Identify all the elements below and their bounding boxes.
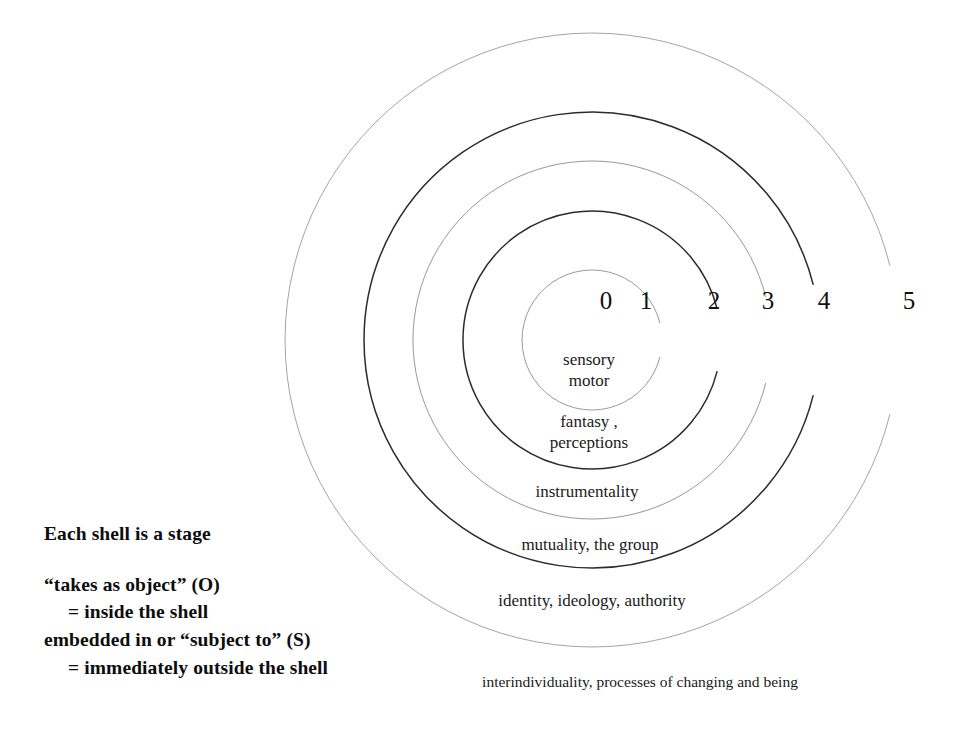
- ring-number-0: 0: [593, 288, 619, 313]
- ring-label-2: fantasy , perceptions: [550, 412, 628, 453]
- shell-ring-3-arc: [413, 161, 766, 519]
- ring-number-5: 5: [896, 288, 922, 313]
- outside-shells-label: interindividuality, processes of changin…: [482, 673, 798, 692]
- ring-label-1: sensory motor: [563, 350, 615, 391]
- ring-number-2: 2: [701, 288, 727, 313]
- legend-line-takes-as-object: “takes as object” (O): [44, 571, 384, 599]
- ring-label-3: instrumentality: [536, 482, 639, 503]
- concentric-shells-diagram: 0 1 2 3 4 5 sensory motor fantasy , perc…: [0, 0, 964, 743]
- legend-line-subject-to: embedded in or “subject to” (S): [44, 626, 384, 654]
- ring-number-4: 4: [811, 288, 837, 313]
- ring-number-3: 3: [755, 288, 781, 313]
- legend-line-inside-the-shell: = inside the shell: [44, 598, 384, 626]
- legend-heading: Each shell is a stage: [44, 520, 384, 548]
- ring-label-5: identity, ideology, authority: [498, 591, 686, 612]
- ring-label-4: mutuality, the group: [521, 535, 658, 556]
- legend-line-outside-the-shell: = immediately outside the shell: [44, 654, 384, 682]
- legend-spacer: [44, 548, 384, 571]
- ring-number-1: 1: [633, 288, 659, 313]
- legend-block: Each shell is a stage “takes as object” …: [44, 520, 384, 681]
